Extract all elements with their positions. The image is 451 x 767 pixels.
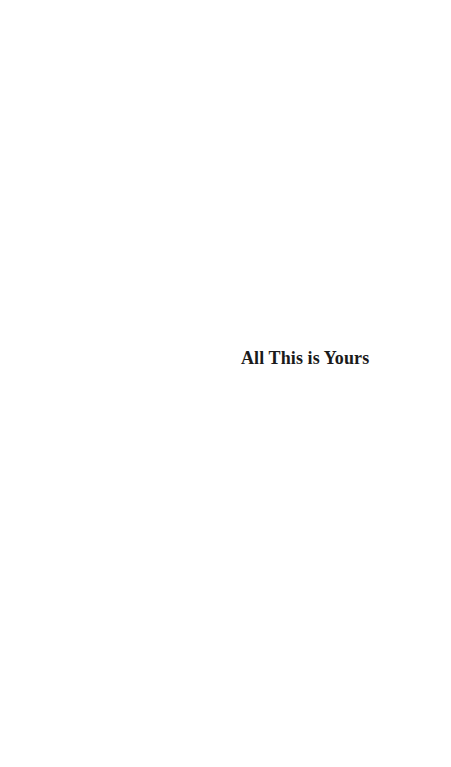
book-half-title: All This is Yours: [241, 347, 369, 369]
book-page: All This is Yours: [0, 0, 451, 767]
